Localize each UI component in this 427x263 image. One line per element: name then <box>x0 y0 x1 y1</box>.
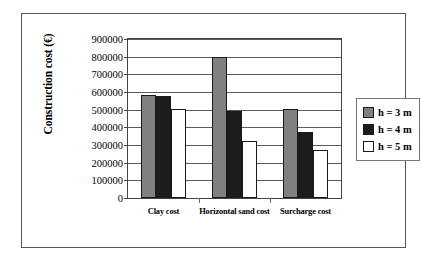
legend-label: h = 4 m <box>378 124 412 135</box>
y-tick-label: 100000 <box>92 175 124 186</box>
legend-item[interactable]: h = 5 m <box>363 138 412 155</box>
y-tick-label: 600000 <box>92 87 124 98</box>
y-tick-mark <box>124 198 128 199</box>
legend-item[interactable]: h = 3 m <box>363 104 412 121</box>
y-tick-label: 900000 <box>92 34 124 45</box>
x-axis-label: Clay cost <box>148 207 179 216</box>
bar[interactable] <box>313 150 328 198</box>
y-tick-label: 500000 <box>92 104 124 115</box>
bar[interactable] <box>212 57 227 198</box>
category-separator <box>270 198 271 203</box>
plot-area: 0100000200000300000400000500000600000700… <box>127 38 342 199</box>
bar[interactable] <box>298 132 313 198</box>
y-axis-title: Construction cost (€) <box>42 14 54 154</box>
y-tick-label: 700000 <box>92 69 124 80</box>
x-axis-label: Horizontal sand cost <box>199 207 270 216</box>
legend-swatch-icon <box>363 141 374 152</box>
y-tick-label: 300000 <box>92 140 124 151</box>
legend-label: h = 5 m <box>378 141 412 152</box>
y-tick-label: 400000 <box>92 122 124 133</box>
bar[interactable] <box>227 111 242 198</box>
y-tick-label: 200000 <box>92 157 124 168</box>
bar[interactable] <box>141 95 156 198</box>
bar-group <box>128 39 199 198</box>
legend-swatch-icon <box>363 107 374 118</box>
y-tick-label: 800000 <box>92 51 124 62</box>
legend-item[interactable]: h = 4 m <box>363 121 412 138</box>
bar[interactable] <box>156 96 171 198</box>
bar-group <box>199 39 270 198</box>
y-tick-label: 0 <box>118 193 123 204</box>
legend-label: h = 3 m <box>378 107 412 118</box>
chart-frame: Construction cost (€) 010000020000030000… <box>21 13 406 248</box>
bar-group <box>270 39 341 198</box>
bar[interactable] <box>171 109 186 198</box>
bar[interactable] <box>283 109 298 198</box>
legend: h = 3 mh = 4 mh = 5 m <box>356 98 420 161</box>
category-separator <box>199 198 200 203</box>
legend-swatch-icon <box>363 124 374 135</box>
x-axis-label: Surcharge cost <box>280 207 331 216</box>
bar[interactable] <box>242 141 257 198</box>
